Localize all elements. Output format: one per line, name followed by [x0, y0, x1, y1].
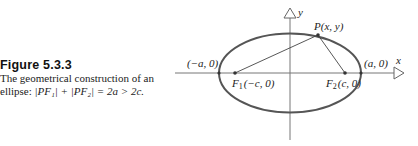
point-p: [316, 33, 320, 37]
x-axis-label: x: [395, 54, 401, 66]
focus2-sub: 2: [333, 82, 337, 91]
focus1-coords: (−c, 0): [244, 77, 275, 90]
focus1-label: F1(−c, 0): [231, 77, 275, 91]
point-f1: [233, 71, 237, 75]
right-vertex-label: (a, 0): [364, 57, 388, 70]
point-left-vertex: [217, 71, 220, 74]
left-vertex-label: (−a, 0): [187, 57, 219, 70]
x-axis-arrow-icon: [394, 67, 404, 79]
point-f2: [343, 71, 347, 75]
focus2-label: F2(c, 0): [325, 77, 361, 91]
point-right-vertex: [359, 71, 362, 74]
point-p-label: P(x, y): [313, 20, 344, 33]
ellipse-diagram: y x P(x, y) (−a, 0) (a, 0) F1(−c, 0) F2(…: [0, 0, 418, 146]
y-axis-arrow-icon: [284, 8, 296, 18]
focus1-sub: 1: [239, 82, 243, 91]
focus2-coords: (c, 0): [338, 77, 362, 90]
y-axis-label: y: [297, 6, 303, 18]
